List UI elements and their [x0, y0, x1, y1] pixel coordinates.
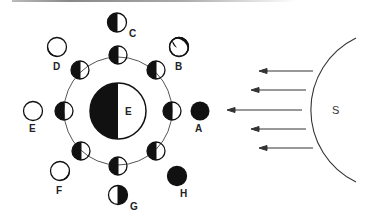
svg-text:G: G	[130, 201, 138, 212]
phase-b-crescent-icon: B	[169, 37, 189, 72]
svg-text:E: E	[29, 123, 36, 134]
phase-e-full-moon-icon: E	[24, 102, 43, 135]
orbit-moon-b	[147, 61, 165, 79]
orbit-moon-h	[147, 142, 165, 160]
svg-text:D: D	[53, 61, 60, 72]
orbit-moon-e	[55, 102, 73, 120]
svg-text:A: A	[195, 123, 202, 134]
earth-label: E	[125, 106, 132, 117]
sunlight-arrows	[227, 69, 313, 151]
phase-h-crescent-icon: H	[167, 167, 187, 200]
orbit-moon-d	[71, 61, 89, 79]
orbit-moon-a	[163, 102, 181, 120]
orbit-moon-g	[109, 157, 127, 175]
phase-d-gibbous-icon: D	[47, 38, 66, 73]
sun: S	[311, 38, 356, 182]
phase-a-new-moon-icon: A	[191, 102, 210, 135]
earth: E	[90, 0, 146, 139]
svg-text:B: B	[175, 61, 182, 72]
orbit-moon-c	[109, 46, 127, 64]
svg-text:F: F	[56, 185, 62, 196]
phase-g-quarter-icon: G	[109, 186, 139, 213]
svg-text:C: C	[129, 28, 136, 39]
sun-label: S	[332, 104, 339, 116]
svg-text:H: H	[180, 188, 187, 199]
orbit-moon-f	[72, 142, 90, 160]
phase-f-gibbous-icon: F	[51, 162, 70, 197]
phase-c-quarter-icon: C	[108, 13, 137, 39]
moon-phase-diagram: E A B C D E	[0, 0, 375, 221]
